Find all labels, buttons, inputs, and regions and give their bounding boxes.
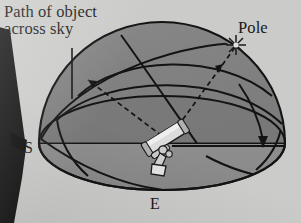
label-east: E	[150, 196, 160, 212]
tripod-leg-icon	[0, 26, 27, 223]
label-south: S	[24, 140, 33, 156]
label-pole: Pole	[238, 20, 268, 37]
star-icon	[226, 35, 246, 55]
label-path-of-object: Path of object across sky	[4, 4, 97, 38]
figure-canvas: Path of object across sky Pole S E	[0, 0, 301, 223]
